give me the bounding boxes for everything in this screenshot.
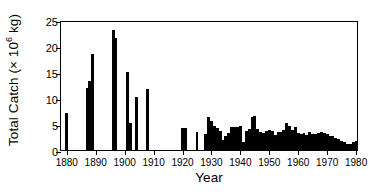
x-tick-label: 1910 bbox=[142, 157, 164, 168]
x-tick-mark bbox=[356, 150, 357, 155]
bar bbox=[65, 113, 68, 150]
bar bbox=[146, 89, 149, 150]
x-tick-label: 1940 bbox=[229, 157, 251, 168]
y-axis-title-suffix: kg) bbox=[6, 14, 21, 37]
x-tick-mark bbox=[298, 150, 299, 155]
x-tick-label: 1930 bbox=[200, 157, 222, 168]
y-axis-title-prefix: Total Catch (× 10 bbox=[6, 42, 21, 146]
y-tick-label: 25 bbox=[46, 16, 58, 28]
x-tick-label: 1920 bbox=[171, 157, 193, 168]
x-tick-mark bbox=[125, 150, 126, 155]
x-tick-mark bbox=[154, 150, 155, 155]
x-tick-label: 1900 bbox=[114, 157, 136, 168]
bar bbox=[196, 132, 199, 150]
x-tick-mark bbox=[327, 150, 328, 155]
y-axis-title: Total Catch (× 106 kg) bbox=[6, 14, 21, 146]
bar bbox=[355, 141, 358, 150]
x-tick-mark bbox=[96, 150, 97, 155]
x-tick-label: 1970 bbox=[316, 157, 338, 168]
bar bbox=[184, 128, 187, 150]
bar-series bbox=[61, 22, 357, 150]
y-axis-title-exponent: 6 bbox=[4, 37, 14, 42]
y-tick-label: 5 bbox=[52, 120, 58, 132]
bar bbox=[115, 38, 118, 150]
x-tick-mark bbox=[211, 150, 212, 155]
chart-figure: Total Catch (× 106 kg) 0510152025 188018… bbox=[0, 0, 377, 194]
x-tick-label: 1950 bbox=[258, 157, 280, 168]
x-tick-mark bbox=[240, 150, 241, 155]
x-tick-mark bbox=[269, 150, 270, 155]
bar bbox=[129, 123, 132, 150]
x-tick-mark bbox=[183, 150, 184, 155]
x-tick-label: 1980 bbox=[345, 157, 367, 168]
x-axis-title: Year bbox=[60, 170, 358, 185]
plot-area: 0510152025 18801890190019101920193019401… bbox=[60, 21, 358, 151]
y-tick-label: 20 bbox=[46, 42, 58, 54]
x-tick-label: 1880 bbox=[56, 157, 78, 168]
y-tick-label: 10 bbox=[46, 94, 58, 106]
bar bbox=[91, 54, 94, 150]
y-tick-label: 15 bbox=[46, 68, 58, 80]
x-tick-label: 1960 bbox=[287, 157, 309, 168]
y-axis-title-wrapper: Total Catch (× 106 kg) bbox=[0, 0, 26, 160]
bar bbox=[135, 97, 138, 150]
x-tick-label: 1890 bbox=[85, 157, 107, 168]
x-tick-mark bbox=[67, 150, 68, 155]
